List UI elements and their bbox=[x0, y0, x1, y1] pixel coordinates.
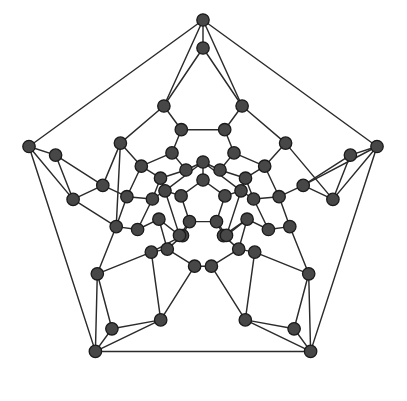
graph-vertex bbox=[175, 124, 187, 136]
graph-vertex bbox=[303, 268, 315, 280]
graph-vertex bbox=[175, 190, 187, 202]
graph-vertex bbox=[154, 172, 166, 184]
graph-vertex bbox=[145, 246, 157, 258]
graph-vertex bbox=[135, 160, 147, 172]
graph-vertex bbox=[220, 229, 232, 241]
graph-vertex bbox=[180, 164, 192, 176]
graph-vertex bbox=[153, 213, 165, 225]
graph-vertex bbox=[197, 174, 209, 186]
graph-vertex bbox=[288, 323, 300, 335]
graph-vertex bbox=[205, 260, 217, 272]
graph-vertex bbox=[241, 213, 253, 225]
graph-vertex bbox=[67, 193, 79, 205]
graph-vertex bbox=[259, 160, 271, 172]
graph-vertex bbox=[106, 323, 118, 335]
graph-vertex bbox=[239, 314, 251, 326]
graph-vertex bbox=[239, 172, 251, 184]
graph-vertex bbox=[158, 100, 170, 112]
graph-vertex bbox=[236, 100, 248, 112]
graph-vertex bbox=[197, 14, 209, 26]
graph-vertex bbox=[197, 42, 209, 54]
graph-vertex bbox=[249, 246, 261, 258]
graph-vertex bbox=[121, 191, 133, 203]
graph-vertex bbox=[155, 314, 167, 326]
graph-vertex bbox=[188, 260, 200, 272]
graph-vertex bbox=[233, 243, 245, 255]
graph-vertex bbox=[159, 185, 171, 197]
graph-vertex bbox=[235, 185, 247, 197]
graph-vertex bbox=[110, 220, 122, 232]
graph-vertex bbox=[228, 147, 240, 159]
graph-vertex bbox=[131, 223, 143, 235]
graph-vertex bbox=[197, 156, 209, 168]
graph-vertex bbox=[247, 193, 259, 205]
graph-vertex bbox=[344, 149, 356, 161]
graph-vertex bbox=[173, 229, 185, 241]
graph-canvas bbox=[0, 0, 407, 401]
graph-vertex bbox=[49, 149, 61, 161]
graph-vertex bbox=[210, 215, 222, 227]
graph-vertex bbox=[89, 345, 101, 357]
graph-vertex bbox=[273, 191, 285, 203]
graph-vertex bbox=[91, 268, 103, 280]
graph-vertex bbox=[219, 190, 231, 202]
graph-vertex bbox=[327, 193, 339, 205]
graph-vertex bbox=[284, 220, 296, 232]
graph-vertex bbox=[214, 164, 226, 176]
graph-vertex bbox=[114, 137, 126, 149]
graph-vertex bbox=[166, 147, 178, 159]
graph-vertex bbox=[297, 179, 309, 191]
graph-vertex bbox=[304, 345, 316, 357]
graph-vertex bbox=[219, 124, 231, 136]
graph-vertex bbox=[23, 140, 35, 152]
fullerene-diagram-figure bbox=[0, 0, 407, 401]
graph-vertex bbox=[97, 179, 109, 191]
graph-vertex bbox=[371, 140, 383, 152]
graph-vertex bbox=[279, 137, 291, 149]
graph-vertex bbox=[146, 193, 158, 205]
canvas-background bbox=[0, 0, 407, 401]
graph-vertex bbox=[161, 243, 173, 255]
graph-vertex bbox=[183, 215, 195, 227]
graph-vertex bbox=[262, 223, 274, 235]
